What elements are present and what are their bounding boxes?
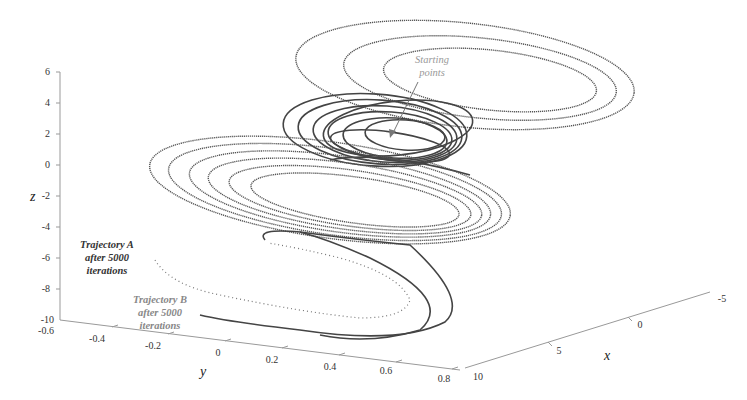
z-tick: -8 xyxy=(42,283,50,294)
svg-text:after 5000: after 5000 xyxy=(85,252,130,263)
y-tick: -0.6 xyxy=(38,325,54,336)
y-tick: 0.2 xyxy=(266,354,279,365)
y-tick: 0 xyxy=(216,347,221,358)
x-tick-labels: 10 5 0 -5 xyxy=(473,293,726,382)
trajectory-a-central-tangle xyxy=(281,88,476,175)
z-tick: -4 xyxy=(42,221,50,232)
y-tick: -0.2 xyxy=(145,340,161,351)
z-tick: 2 xyxy=(45,128,50,139)
z-axis-label: z xyxy=(29,189,36,204)
z-tick: -10 xyxy=(41,314,54,325)
x-tick: -5 xyxy=(718,293,726,304)
z-tick: 0 xyxy=(45,159,50,170)
x-tick: 0 xyxy=(638,319,643,330)
x-axis-line xyxy=(465,292,710,368)
annotation-trajectory-b: Trajectory B after 5000 iterations xyxy=(133,294,187,331)
y-tick: -0.4 xyxy=(89,333,105,344)
annotation-trajectory-a: Trajectory A after 5000 iterations xyxy=(80,239,134,276)
x-tick: 5 xyxy=(557,345,562,356)
svg-text:Trajectory A: Trajectory A xyxy=(80,239,134,250)
svg-text:iterations: iterations xyxy=(140,320,181,331)
y-tick-labels: -0.6 -0.4 -0.2 0 0.2 0.4 0.6 0.8 xyxy=(38,325,450,384)
x-axis-label: x xyxy=(603,348,611,363)
z-tick: 6 xyxy=(45,66,50,77)
svg-text:iterations: iterations xyxy=(87,265,128,276)
y-axis-line xyxy=(60,320,460,370)
y-tick: 0.8 xyxy=(438,373,451,384)
svg-text:after 5000: after 5000 xyxy=(138,307,183,318)
arrow-head-icon xyxy=(389,129,396,138)
x-tick: 10 xyxy=(473,371,483,382)
trajectory-tails xyxy=(155,231,452,339)
attractor-3d-plot: 6 4 2 0 -2 -4 -6 -8 -10 z -0.6 -0.4 -0.2… xyxy=(0,0,747,400)
svg-text:Trajectory B: Trajectory B xyxy=(133,294,187,305)
z-tick-labels: 6 4 2 0 -2 -4 -6 -8 -10 xyxy=(41,66,54,325)
y-tick: 0.6 xyxy=(380,365,393,376)
y-tick: 0.4 xyxy=(324,361,337,372)
z-tick: 4 xyxy=(45,97,50,108)
svg-text:Starting: Starting xyxy=(415,54,449,65)
z-tick: -2 xyxy=(42,190,50,201)
y-axis-label: y xyxy=(198,364,207,379)
z-tick: -6 xyxy=(42,252,50,263)
trajectory-a-upper-scroll xyxy=(290,6,639,145)
svg-text:points: points xyxy=(418,67,445,78)
